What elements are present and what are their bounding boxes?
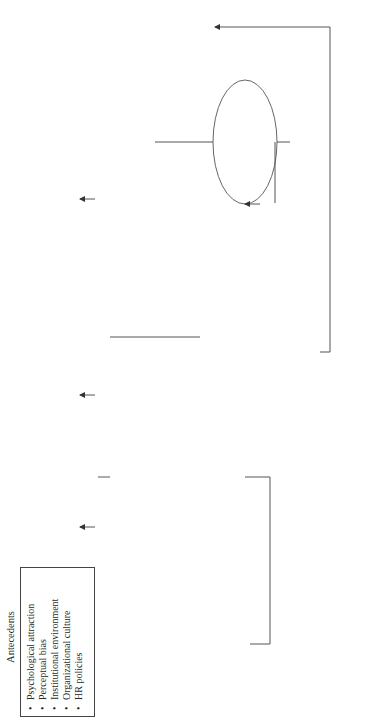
list-item: HR policies	[73, 572, 85, 700]
antecedents-box: Psychological attraction Perceptual bias…	[20, 567, 95, 717]
list-item: Organizational culture	[61, 572, 73, 700]
list-item: Institutional environment	[49, 572, 61, 700]
list-item: Perceptual bias	[37, 572, 49, 700]
diagram-canvas: Antecedents Psychological attraction Per…	[0, 0, 386, 727]
list-item: Psychological attraction	[25, 572, 37, 700]
antecedents-title: Antecedents	[5, 557, 17, 717]
antecedents-list: Psychological attraction Perceptual bias…	[25, 572, 85, 712]
